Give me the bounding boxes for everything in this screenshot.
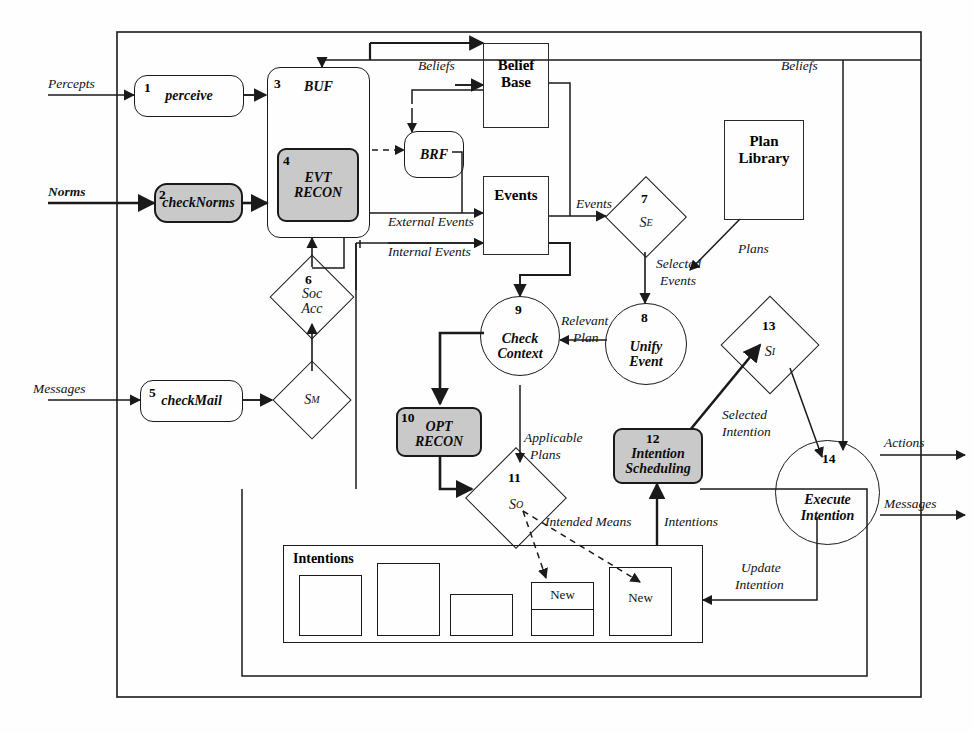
edge-label-intended-means: Intended Means — [545, 514, 632, 529]
edge-label-external-events: External Events — [388, 214, 474, 229]
intention-item-5-label: New — [610, 590, 671, 606]
edge-label-relevant-plan-line1: Relevant — [561, 313, 608, 328]
node-perceive-label: perceive — [165, 88, 212, 103]
node-evt-recon-label-line1: EVT — [304, 170, 331, 185]
edge-label-events-to-se: Events — [576, 196, 612, 211]
node-so-number: 11 — [508, 470, 521, 486]
edge-label-plans: Plans — [738, 241, 769, 256]
node-unify-event-line2: Event — [629, 354, 662, 369]
output-label-messages: Messages — [884, 496, 937, 511]
edge-label-selected-events-line2: Events — [660, 273, 696, 288]
si-main: S — [765, 345, 772, 360]
node-checkmail-number: 5 — [149, 385, 156, 401]
store-belief-base-line2: Base — [498, 74, 535, 91]
edge-label-update-intention-line1: Update — [741, 560, 781, 575]
edge-label-applicable-plans-line1: Applicable — [524, 430, 582, 445]
edge-label-intentions-flow: Intentions — [664, 514, 718, 529]
input-label-messages: Messages — [33, 381, 86, 396]
output-label-actions: Actions — [884, 435, 925, 450]
se-sub: E — [646, 218, 652, 229]
node-opt-recon-line1: OPT — [425, 419, 452, 434]
node-si-number: 13 — [762, 318, 776, 334]
node-check-context-line1: Check — [502, 331, 539, 346]
so-sub: O — [516, 500, 523, 511]
intention-item-4-divider — [532, 609, 593, 610]
node-evt-recon-label-line2: RECON — [294, 185, 342, 200]
node-checkmail-label: checkMail — [161, 393, 222, 408]
store-plan-library-line1: Plan — [739, 133, 790, 150]
input-label-percepts: Percepts — [48, 76, 95, 91]
node-unify-event-line1: Unify — [630, 339, 663, 354]
node-soc-acc-number: 6 — [305, 272, 312, 288]
node-intention-scheduling-number: 12 — [646, 431, 660, 447]
node-checknorms[interactable]: checkNorms — [154, 183, 243, 223]
intention-item-4-label: New — [532, 587, 593, 603]
node-execute-intention-line1: Execute — [804, 492, 851, 507]
node-buf-number: 3 — [274, 76, 281, 92]
intention-item-1[interactable] — [299, 575, 362, 636]
intention-item-5[interactable]: New — [609, 567, 672, 636]
node-sm-label: SM — [284, 372, 340, 428]
store-events-label: Events — [494, 187, 537, 204]
edge-label-update-intention-line2: Intention — [735, 577, 784, 592]
node-check-context-number: 9 — [515, 302, 522, 318]
edge-label-beliefs-top: Beliefs — [781, 58, 818, 73]
node-execute-intention-number: 14 — [822, 451, 836, 467]
edge-label-applicable-plans-line2: Plans — [530, 447, 561, 462]
si-sub: I — [772, 347, 775, 358]
sm-sub: M — [311, 395, 319, 406]
node-opt-recon-number: 10 — [401, 410, 415, 426]
node-brf[interactable]: BRF — [404, 131, 464, 178]
node-soc-acc-label: Soc Acc — [282, 267, 342, 327]
intention-item-2[interactable] — [377, 563, 440, 636]
node-checknorms-number: 2 — [159, 187, 166, 203]
intention-item-4[interactable]: New — [531, 582, 594, 636]
soc-acc-line2: Acc — [302, 302, 323, 317]
node-se-number: 7 — [641, 191, 648, 207]
edge-label-selected-events-line1: Selected — [656, 256, 701, 271]
node-buf-label: BUF — [304, 79, 333, 94]
node-execute-intention-line2: Intention — [801, 508, 855, 523]
store-plan-library[interactable]: Plan Library — [724, 120, 804, 220]
input-label-norms: Norms — [48, 184, 86, 199]
node-checknorms-label: checkNorms — [162, 195, 234, 210]
node-brf-label: BRF — [420, 147, 448, 162]
node-evt-recon-number: 4 — [283, 153, 290, 169]
node-opt-recon-line2: RECON — [415, 434, 463, 449]
so-main: S — [509, 498, 516, 513]
soc-acc-line1: Soc — [302, 287, 322, 302]
store-belief-base[interactable]: Belief Base — [483, 43, 549, 128]
edge-label-internal-events: Internal Events — [388, 244, 471, 259]
intention-item-3[interactable] — [450, 594, 513, 636]
diagram-canvas: Percepts Norms Messages Actions Messages… — [0, 0, 973, 733]
store-events[interactable]: Events — [483, 176, 549, 255]
node-check-context-line2: Context — [497, 346, 542, 361]
edge-label-selected-intention-line1: Selected — [722, 407, 767, 422]
store-intentions-label: Intentions — [293, 551, 354, 567]
node-perceive-number: 1 — [144, 80, 151, 96]
store-belief-base-line1: Belief — [498, 57, 535, 74]
edge-label-beliefs-brf: Beliefs — [418, 58, 455, 73]
node-unify-event-number: 8 — [641, 310, 648, 326]
node-soc-acc[interactable]: Soc Acc — [282, 267, 342, 327]
store-plan-library-line2: Library — [739, 150, 790, 167]
edge-label-relevant-plan-line2: Plan — [573, 330, 599, 345]
node-intention-scheduling-line1: Intention — [631, 446, 685, 461]
node-intention-scheduling-line2: Scheduling — [625, 461, 690, 476]
node-sm-diamond[interactable]: SM — [284, 372, 340, 428]
edge-label-selected-intention-line2: Intention — [722, 424, 771, 439]
